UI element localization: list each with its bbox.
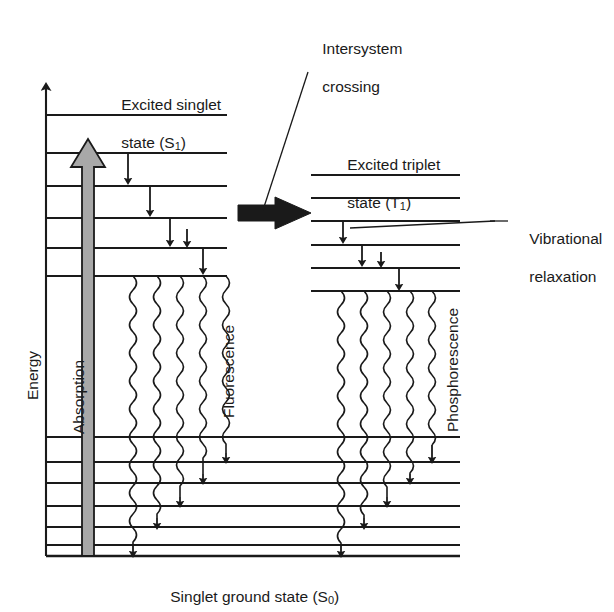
s0-levels <box>46 437 460 556</box>
intersystem-crossing-arrow <box>238 72 311 229</box>
phosphorescence-wave <box>407 291 414 474</box>
fluorescence-wave <box>154 276 161 518</box>
excited-singlet-label: Excited singlet state (S1) <box>104 76 221 175</box>
intersystem-crossing-leader-line <box>263 72 308 210</box>
absorption-arrow <box>71 139 105 556</box>
vibrational-relaxation-label: Vibrational relaxation <box>512 210 602 305</box>
fluorescence-wave <box>130 276 137 545</box>
fluorescence-wave <box>177 276 184 497</box>
energy-axis-label: Energy <box>24 351 42 400</box>
absorption-arrow-shape <box>71 139 105 556</box>
intersystem-crossing-label: Intersystem crossing <box>305 20 402 115</box>
fluorescence-arrows <box>133 453 226 553</box>
absorption-label: Absorption <box>70 360 88 434</box>
intersystem-crossing-arrow-shape <box>238 197 311 229</box>
phosphorescence-wave <box>384 291 391 497</box>
phosphorescence-label: Phosphorescence <box>444 308 462 432</box>
jablonski-diagram: Excited singlet state (S1) Excited tripl… <box>0 0 614 612</box>
fluorescence-waves <box>130 276 230 545</box>
singlet-ground-state-label: Singlet ground state (S0) <box>153 568 339 612</box>
excited-triplet-label: Excited triplet state (T1) <box>330 136 440 235</box>
phosphorescence-wave <box>429 291 436 445</box>
fluorescence-label: Fluorescence <box>220 325 238 418</box>
fluorescence-wave <box>200 276 207 474</box>
